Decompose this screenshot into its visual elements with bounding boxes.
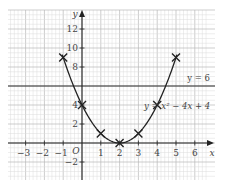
x-tick-label: −3 bbox=[17, 148, 31, 158]
y-tick-label: −2 bbox=[65, 157, 78, 167]
x-tick-label: 2 bbox=[117, 148, 123, 158]
y-tick-label: 10 bbox=[67, 43, 79, 53]
label-parabola-equation: y = x² − 4x + 4 bbox=[143, 101, 210, 111]
x-tick-label: 1 bbox=[98, 148, 104, 158]
y-tick-label: 2 bbox=[72, 119, 78, 129]
y-tick-label: 8 bbox=[72, 62, 78, 72]
parabola-chart: −3−2−1123456−22481012xyOy = 6y = x² − 4x… bbox=[0, 0, 227, 184]
origin-label: O bbox=[72, 146, 80, 156]
y-axis-arrow-icon bbox=[79, 10, 85, 17]
x-tick-label: −2 bbox=[36, 148, 49, 158]
y-tick-label: 12 bbox=[67, 24, 78, 34]
x-tick-label: 4 bbox=[154, 148, 160, 158]
x-tick-label: 3 bbox=[136, 148, 142, 158]
x-tick-label: 5 bbox=[173, 148, 179, 158]
x-axis-arrow-icon bbox=[207, 140, 214, 146]
label-y-equals-6: y = 6 bbox=[186, 73, 210, 83]
y-axis-label: y bbox=[71, 9, 78, 19]
x-tick-label: 6 bbox=[192, 148, 198, 158]
y-tick-label: 4 bbox=[72, 100, 78, 110]
x-axis-label: x bbox=[209, 148, 214, 158]
